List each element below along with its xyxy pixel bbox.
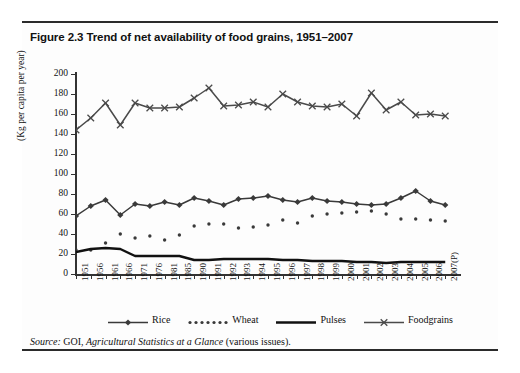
data-point-marker <box>296 221 299 224</box>
plot-area <box>76 74 460 274</box>
data-point-marker <box>191 95 198 102</box>
legend-label: Pulses <box>320 314 346 325</box>
x-axis-tick-mark <box>327 275 328 279</box>
data-point-marker <box>206 198 212 204</box>
data-point-marker <box>192 224 195 227</box>
data-point-marker <box>324 198 330 204</box>
y-axis-tick-mark <box>71 114 75 115</box>
x-axis-tick-mark <box>238 275 239 279</box>
data-point-marker <box>163 238 166 241</box>
data-point-marker <box>133 236 136 239</box>
x-axis-tick-mark <box>386 275 387 279</box>
data-point-marker <box>265 193 271 199</box>
data-point-marker <box>125 319 131 325</box>
legend-label: Foodgrains <box>408 314 453 325</box>
data-point-marker <box>398 99 405 106</box>
data-point-marker <box>429 218 432 221</box>
x-axis-tick-mark <box>357 275 358 279</box>
data-point-marker <box>222 222 225 225</box>
y-axis-tick-label: 80 <box>40 189 68 199</box>
source-label: Source: <box>30 336 61 347</box>
x-axis-tick-mark <box>253 275 254 279</box>
data-point-marker <box>191 195 197 201</box>
data-point-marker <box>117 122 124 129</box>
y-axis-tick-label: 20 <box>40 249 68 259</box>
legend-item-pulses[interactable]: Pulses <box>276 314 346 325</box>
data-point-marker <box>340 211 343 214</box>
y-axis-tick-mark <box>71 174 75 175</box>
data-point-marker <box>325 212 328 215</box>
data-point-marker <box>279 91 286 98</box>
data-point-marker <box>383 201 389 207</box>
x-axis-tick-mark <box>342 275 343 279</box>
data-point-marker <box>281 218 284 221</box>
y-axis-tick-label: 60 <box>40 209 68 219</box>
y-axis-tick-label: 40 <box>40 229 68 239</box>
data-point-marker <box>119 232 122 235</box>
figure-container: Figure 2.3 Trend of net availability of … <box>22 21 498 351</box>
data-point-marker <box>237 226 240 229</box>
x-axis-tick-mark <box>209 275 210 279</box>
data-point-marker <box>221 202 227 208</box>
y-axis-tick-label: 200 <box>40 69 68 79</box>
x-axis-tick-mark <box>165 275 166 279</box>
y-axis-tick-label: 0 <box>40 269 68 279</box>
data-point-marker <box>398 195 404 201</box>
x-axis-tick-mark <box>106 275 107 279</box>
data-point-marker <box>104 241 107 244</box>
data-point-marker <box>368 202 374 208</box>
data-point-marker <box>384 212 387 215</box>
y-axis-tick-mark <box>71 94 75 95</box>
x-axis-tick-mark <box>135 275 136 279</box>
data-point-marker <box>148 234 151 237</box>
y-axis-tick-mark <box>71 134 75 135</box>
series-pulses <box>76 248 445 263</box>
legend-swatch-pulses-icon <box>276 314 316 325</box>
legend-item-wheat[interactable]: Wheat <box>188 314 258 325</box>
y-axis-tick-mark <box>71 274 75 275</box>
data-point-marker <box>368 90 375 97</box>
y-axis-tick-label: 180 <box>40 89 68 99</box>
x-axis-tick-mark <box>416 275 417 279</box>
y-axis-tick-mark <box>71 254 75 255</box>
data-point-marker <box>102 100 109 107</box>
plot-wrapper: (Kg per capita per year) 020406080100120… <box>22 23 498 353</box>
x-axis-tick-mark <box>268 275 269 279</box>
data-point-marker <box>206 85 213 92</box>
data-point-marker <box>444 219 447 222</box>
x-axis-tick-mark <box>194 275 195 279</box>
data-point-marker <box>442 202 448 208</box>
chart-legend: RiceWheatPulsesFoodgrains <box>108 311 438 327</box>
x-axis-tick-mark <box>283 275 284 279</box>
x-axis-tick-mark <box>76 275 77 279</box>
y-axis-tick-label: 140 <box>40 129 68 139</box>
legend-item-foodgrains[interactable]: Foodgrains <box>364 314 453 325</box>
data-point-marker <box>354 201 360 207</box>
data-point-marker <box>162 199 168 205</box>
y-axis-title: (Kg per capita per year) <box>16 50 26 141</box>
source-agency: GOI, <box>63 336 83 347</box>
x-axis-tick-mark <box>179 275 180 279</box>
legend-swatch-rice-icon <box>108 314 148 325</box>
x-axis-tick-mark <box>371 275 372 279</box>
data-point-marker <box>339 199 345 205</box>
data-point-marker <box>207 222 210 225</box>
y-axis-tick-label: 120 <box>40 149 68 159</box>
y-axis-tick-mark <box>71 194 75 195</box>
legend-label: Wheat <box>232 314 258 325</box>
series-line <box>76 248 445 263</box>
data-point-marker <box>309 195 315 201</box>
y-axis-tick-mark <box>71 214 75 215</box>
data-point-marker <box>311 214 314 217</box>
x-axis-tick-mark <box>91 275 92 279</box>
x-axis-tick-mark <box>445 275 446 279</box>
data-point-marker <box>250 195 256 201</box>
legend-item-rice[interactable]: Rice <box>108 314 170 325</box>
x-axis-tick-mark <box>224 275 225 279</box>
data-point-marker <box>355 210 358 213</box>
x-axis-tick-mark <box>150 275 151 279</box>
y-axis-tick-label: 100 <box>40 169 68 179</box>
x-axis-tick-mark <box>430 275 431 279</box>
x-axis-tick-mark <box>298 275 299 279</box>
data-point-marker <box>178 233 181 236</box>
